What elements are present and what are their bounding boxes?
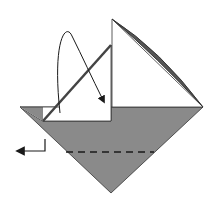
origami-diagram <box>0 0 215 204</box>
left-direction-arrow <box>20 139 45 151</box>
white-right-flap <box>112 19 203 107</box>
